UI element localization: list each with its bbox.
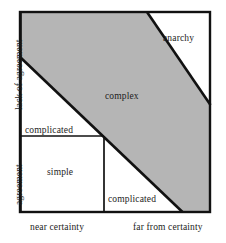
x-axis-label-far-from-certainty: far from certainty — [133, 222, 203, 232]
region-label-complicated-lower: complicated — [108, 194, 156, 204]
x-axis-label-near-certainty: near certainty — [30, 222, 84, 232]
region-label-complex: complex — [105, 91, 139, 101]
region-label-anarchy: anarchy — [163, 33, 194, 43]
region-label-simple: simple — [47, 167, 73, 177]
region-label-complicated-upper: complicated — [25, 125, 73, 135]
y-axis-label-agreement: agreement — [14, 164, 24, 205]
y-axis-label-lack-of-agreement: lack of agreement — [14, 39, 24, 110]
